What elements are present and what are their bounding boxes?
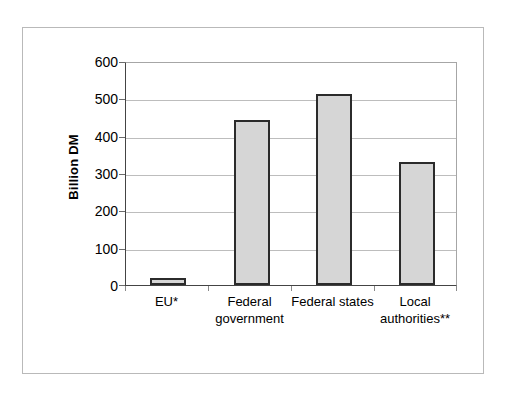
x-tick-label-local-authorities-line-1: Local	[380, 293, 450, 310]
y-tick-label-300: 300	[72, 167, 118, 181]
y-tick-label-200: 200	[72, 204, 118, 218]
x-tick-mark-4	[456, 286, 457, 291]
y-tick-label-100: 100	[72, 242, 118, 256]
figure: Billion DM 600 500 400 300 200 100 0	[0, 0, 507, 401]
x-tick-label-local-authorities-line-2: authorities**	[380, 310, 450, 327]
x-tick-label-local-authorities: Local authorities**	[380, 293, 450, 327]
x-tick-label-eu-line-1: EU*	[155, 293, 178, 310]
y-tick-label-500: 500	[72, 92, 118, 106]
x-axis-tick-labels: EU* Federal government Federal states Lo…	[125, 293, 457, 353]
x-tick-label-eu: EU*	[155, 293, 178, 310]
x-tick-label-federal-states: Federal states	[291, 293, 373, 310]
y-axis-tick-labels: 600 500 400 300 200 100 0	[68, 62, 118, 286]
x-tick-label-federal-government-line-1: Federal	[215, 293, 284, 310]
bar-federal-government[interactable]	[234, 120, 270, 285]
y-tick-label-600: 600	[72, 55, 118, 69]
x-tick-mark-3	[374, 286, 375, 291]
x-tick-label-federal-government-line-2: government	[215, 310, 284, 327]
x-axis-tick-marks	[125, 286, 457, 292]
x-tick-mark-1	[208, 286, 209, 291]
gridline-500	[126, 100, 456, 101]
x-tick-label-federal-government: Federal government	[215, 293, 284, 327]
gridline-400	[126, 138, 456, 139]
y-tick-label-400: 400	[72, 130, 118, 144]
x-tick-label-federal-states-line-1: Federal states	[291, 293, 373, 310]
x-tick-mark-2	[291, 286, 292, 291]
y-tick-label-0: 0	[72, 279, 118, 293]
x-tick-mark-0	[125, 286, 126, 291]
bar-eu[interactable]	[150, 278, 186, 285]
bar-local-authorities[interactable]	[399, 162, 435, 285]
bar-federal-states[interactable]	[316, 94, 352, 285]
plot-area	[125, 62, 457, 286]
